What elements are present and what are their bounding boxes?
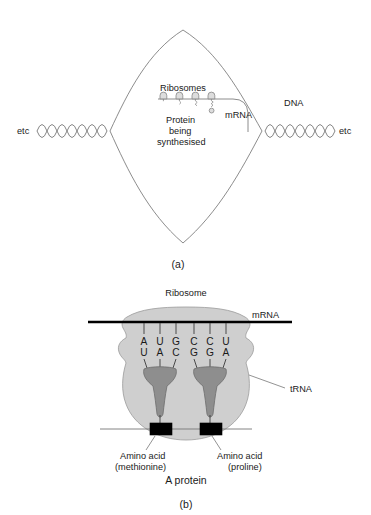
- amino-acid-1-leader: [146, 436, 155, 450]
- codon-base-1: A: [141, 336, 148, 347]
- anticodon-base-2: A: [157, 347, 164, 358]
- ribosome-body: [118, 307, 253, 440]
- dna-strand-right-a: [265, 125, 335, 138]
- label-protein-line3: synthesised: [157, 137, 206, 147]
- codon-base-3: G: [172, 336, 180, 347]
- anticodon-base-3: C: [172, 347, 179, 358]
- ribosome-bead-4: [208, 92, 215, 113]
- figure-root: etc etc DNA mRNA Ribosomes Protein being…: [0, 0, 371, 515]
- dna-strand-left-b: [37, 125, 107, 138]
- anticodon-base-4: G: [190, 347, 198, 358]
- codon-base-4: C: [190, 336, 197, 347]
- anticodon-base-1: U: [140, 347, 147, 358]
- label-amino-acid-1-line2: (methionine): [115, 462, 166, 472]
- codon-base-2: U: [156, 336, 163, 347]
- label-ribosomes: Ribosomes: [160, 83, 206, 93]
- biology-figure-svg: etc etc DNA mRNA Ribosomes Protein being…: [0, 0, 371, 515]
- label-protein-line1: Protein: [166, 115, 195, 125]
- ribosome-bead-2: [176, 92, 183, 104]
- label-a-protein: A protein: [165, 474, 207, 486]
- codon-base-6: U: [222, 336, 229, 347]
- label-trna: tRNA: [290, 384, 313, 394]
- dna-helix-left: [37, 125, 107, 138]
- label-dna: DNA: [284, 98, 304, 108]
- panel-a-group: etc etc DNA mRNA Ribosomes Protein being…: [17, 30, 352, 270]
- ribosome-bead-3: [192, 92, 199, 106]
- label-ribosome: Ribosome: [165, 288, 206, 298]
- amino-acid-2-leader: [212, 436, 221, 450]
- label-amino-acid-2-line2: (proline): [228, 462, 262, 472]
- label-mrna-a: mRNA: [225, 110, 253, 120]
- transcription-bubble-lower: [110, 131, 262, 243]
- anticodon-base-6: A: [223, 347, 230, 358]
- dna-helix-right: [265, 125, 335, 138]
- label-mrna-b: mRNA: [252, 310, 280, 320]
- ribosome-bead-1: [160, 92, 167, 101]
- label-etc-right: etc: [339, 126, 352, 136]
- dna-strand-left-a: [37, 125, 107, 138]
- codon-base-5: C: [206, 336, 213, 347]
- label-etc-left: etc: [17, 126, 30, 136]
- caption-panel-b: (b): [180, 498, 193, 510]
- label-amino-acid-2-line1: Amino acid: [217, 451, 262, 461]
- amino-acid-box-methionine: [150, 423, 172, 435]
- caption-panel-a: (a): [172, 258, 185, 270]
- amino-acid-box-proline: [200, 423, 222, 435]
- dna-strand-right-b: [265, 125, 335, 138]
- panel-b-group: Ribosome mRNA A U G C C: [88, 288, 313, 510]
- label-protein-line2: being: [169, 126, 191, 136]
- label-amino-acid-1-line1: Amino acid: [120, 451, 165, 461]
- trna-leader-line: [249, 375, 285, 388]
- anticodon-base-5: G: [206, 347, 214, 358]
